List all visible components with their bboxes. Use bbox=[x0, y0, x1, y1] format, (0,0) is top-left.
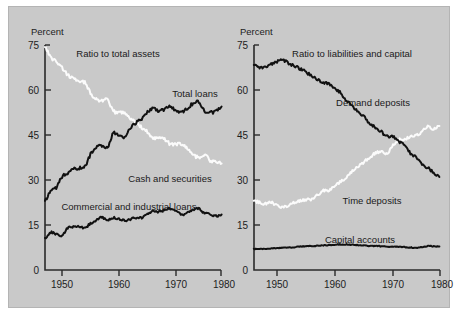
chart-panel-left: Percent 75 60 45 30 15 0 bbox=[9, 7, 238, 309]
left-xtick-1960: 1960 bbox=[108, 279, 131, 290]
left-ytick-0: 0 bbox=[33, 265, 39, 276]
right-ytick-0: 0 bbox=[242, 265, 248, 276]
series-line-cash-and-securities bbox=[45, 47, 222, 164]
left-axes bbox=[45, 45, 221, 270]
left-ytick-15: 15 bbox=[28, 220, 40, 231]
right-ratio-annotation: Ratio to liabilities and capital bbox=[292, 48, 412, 59]
left-panel-svg: Percent 75 60 45 30 15 0 bbox=[9, 7, 238, 309]
series-line-total-loans bbox=[45, 100, 222, 201]
right-ytick-30: 30 bbox=[237, 175, 249, 186]
right-xtick-1970: 1970 bbox=[382, 279, 405, 290]
right-ytick-75: 75 bbox=[237, 40, 249, 51]
series-line-commercial-and-industrial-loans bbox=[45, 208, 222, 239]
series-line-demand-deposits bbox=[254, 59, 440, 177]
right-ytick-15: 15 bbox=[237, 220, 249, 231]
right-panel-svg: Percent 75 60 45 30 15 0 1950 1960 bbox=[230, 7, 458, 309]
right-series-group bbox=[254, 59, 440, 249]
right-y-axis-title: Percent bbox=[240, 26, 273, 37]
left-xtick-1950: 1950 bbox=[51, 279, 74, 290]
right-ytick-45: 45 bbox=[237, 130, 249, 141]
left-ytick-30: 30 bbox=[28, 175, 40, 186]
left-ytick-45: 45 bbox=[28, 130, 40, 141]
right-xtick-1950: 1950 bbox=[266, 279, 289, 290]
label-total-loans: Total loans bbox=[172, 88, 218, 99]
right-ytick-60: 60 bbox=[237, 85, 249, 96]
left-ytick-60: 60 bbox=[28, 85, 40, 96]
label-capital-accounts: Capital accounts bbox=[325, 234, 395, 245]
left-ratio-annotation: Ratio to total assets bbox=[76, 48, 160, 59]
chart-panel-right: Percent 75 60 45 30 15 0 1950 1960 bbox=[230, 7, 458, 309]
left-xtick-1970: 1970 bbox=[165, 279, 188, 290]
right-xtick-1980: 1980 bbox=[431, 279, 454, 290]
figure-root: Percent 75 60 45 30 15 0 bbox=[0, 0, 458, 316]
label-demand-deposits: Demand deposits bbox=[336, 97, 410, 108]
label-cash-and-securities: Cash and securities bbox=[128, 173, 212, 184]
chart-plate: Percent 75 60 45 30 15 0 bbox=[8, 6, 450, 308]
left-ytick-75: 75 bbox=[28, 40, 40, 51]
right-xtick-1960: 1960 bbox=[324, 279, 347, 290]
label-commercial-and-industrial-loans: Commercial and industrial loans bbox=[61, 201, 196, 212]
label-time-deposits: Time deposits bbox=[343, 195, 402, 206]
left-y-axis-title: Percent bbox=[31, 26, 64, 37]
